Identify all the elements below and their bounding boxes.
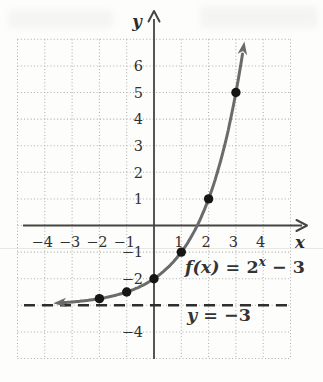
- x-tick-label: 4: [256, 234, 265, 250]
- y-tick-label: 5: [134, 85, 143, 101]
- y-tick-label: 6: [134, 58, 143, 74]
- data-point: [95, 294, 104, 303]
- y-tick-label: −1: [122, 244, 143, 260]
- x-tick-label: 1: [174, 234, 183, 250]
- x-tick-label: 3: [229, 234, 238, 250]
- x-tick-label: −4: [32, 234, 53, 250]
- equation-segment: f(x): [183, 257, 220, 277]
- y-tick-label: 3: [134, 138, 143, 154]
- data-point: [204, 194, 213, 203]
- data-point: [149, 274, 158, 283]
- data-point: [122, 287, 131, 296]
- x-axis-label: x: [294, 233, 305, 252]
- function-equation-label: f(x) = 2x − 3: [183, 254, 305, 277]
- y-tick-label: 2: [134, 165, 143, 181]
- x-tick-label: −2: [86, 234, 107, 250]
- asymptote-equation-label: y = −3: [186, 305, 251, 325]
- x-tick-label: −3: [59, 234, 80, 250]
- y-tick-label: 4: [134, 111, 143, 127]
- equation-segment: = −3: [197, 305, 251, 325]
- y-tick-label: −4: [122, 324, 143, 340]
- y-tick-label: 1: [134, 191, 143, 207]
- equation-segment: = 2: [220, 257, 259, 277]
- exponential-function-chart: −4−3−2−11234654321−1−2−4 y x f(x) = 2x −…: [0, 0, 323, 382]
- y-tick-label: −2: [122, 271, 143, 287]
- equation-segment: − 3: [266, 257, 305, 277]
- tick-labels: −4−3−2−11234654321−1−2−4: [32, 58, 266, 340]
- x-tick-label: 2: [201, 234, 210, 250]
- y-axis-label: y: [131, 12, 143, 31]
- figure-exponential-graph: −4−3−2−11234654321−1−2−4 y x f(x) = 2x −…: [0, 0, 323, 382]
- data-point: [231, 88, 240, 97]
